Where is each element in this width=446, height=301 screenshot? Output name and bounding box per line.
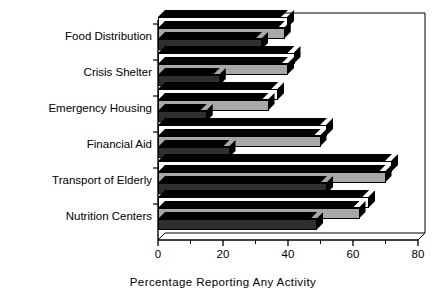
x-tick-label: 40 bbox=[273, 249, 303, 261]
bar-end-cap bbox=[391, 154, 398, 172]
bar-top-face bbox=[158, 129, 321, 136]
bar-end-cap bbox=[294, 46, 301, 64]
bar-end-cap bbox=[326, 118, 333, 136]
bar-top-face bbox=[158, 140, 230, 147]
bar-end-cap bbox=[277, 82, 284, 100]
x-tick-label: 60 bbox=[338, 249, 368, 261]
bar-top-face bbox=[158, 46, 295, 53]
bar-top-face bbox=[158, 201, 360, 208]
bar-top-face bbox=[158, 93, 269, 100]
bar-top-face bbox=[158, 212, 317, 219]
bar-top-face bbox=[158, 154, 392, 161]
bar-top-face bbox=[158, 10, 288, 17]
bar-top-face bbox=[158, 82, 278, 89]
bar-top-face bbox=[158, 176, 327, 183]
chart-page: Food DistributionCrisis ShelterEmergency… bbox=[0, 0, 446, 301]
bar-series-3 bbox=[158, 219, 317, 230]
x-tick-label: 80 bbox=[403, 249, 433, 261]
bar-end-cap bbox=[368, 190, 375, 208]
bar-top-face bbox=[158, 190, 369, 197]
bar-top-face bbox=[158, 165, 386, 172]
bar-top-face bbox=[158, 57, 288, 64]
x-tick-label: 0 bbox=[143, 249, 173, 261]
bar-top-face bbox=[158, 32, 262, 39]
bar-top-face bbox=[158, 118, 327, 125]
bar-top-face bbox=[158, 104, 207, 111]
bar-top-face bbox=[158, 21, 285, 28]
x-tick-label: 20 bbox=[208, 249, 238, 261]
x-axis-title: Percentage Reporting Any Activity bbox=[0, 276, 446, 288]
bar-top-face bbox=[158, 68, 220, 75]
